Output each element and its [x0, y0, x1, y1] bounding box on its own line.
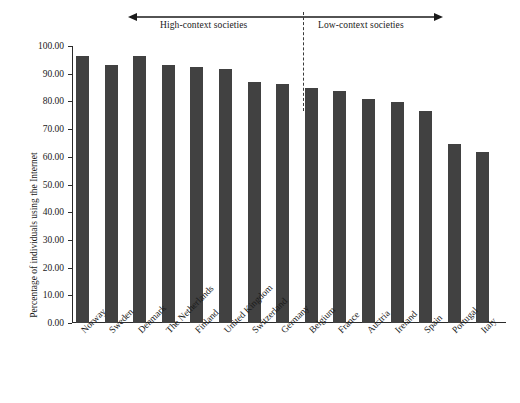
- context-annotation-band: High-context societies Low-context socie…: [0, 0, 520, 40]
- bar: [248, 82, 261, 323]
- annotation-arrow-svg: [0, 0, 520, 40]
- bar: [76, 56, 89, 323]
- bar: [276, 84, 289, 323]
- bar: [305, 88, 318, 323]
- y-tick-label: 70.00: [43, 124, 64, 134]
- bar: [133, 56, 146, 323]
- bar: [219, 69, 232, 323]
- y-tick-label: 60.00: [43, 152, 64, 162]
- bar: [391, 102, 404, 323]
- bars-layer: [73, 46, 507, 323]
- y-tick-label: 0.00: [47, 318, 64, 328]
- y-axis-title: Percentage of individuals using the Inte…: [29, 115, 39, 355]
- y-tick-label: 50.00: [43, 180, 64, 190]
- bar: [476, 152, 489, 323]
- y-tick-label: 10.00: [43, 290, 64, 300]
- bar: [333, 91, 346, 323]
- y-tick-mark: [68, 323, 72, 324]
- y-tick-label: 20.00: [43, 263, 64, 273]
- annotation-label-high-context: High-context societies: [160, 20, 247, 30]
- y-tick-label: 100.00: [38, 41, 64, 51]
- bar: [419, 111, 432, 323]
- y-tick-label: 30.00: [43, 235, 64, 245]
- y-tick-label: 90.00: [43, 69, 64, 79]
- annotation-label-low-context: Low-context societies: [318, 20, 404, 30]
- y-tick-label: 40.00: [43, 207, 64, 217]
- bar: [190, 67, 203, 323]
- bar: [162, 65, 175, 323]
- y-axis: Percentage of individuals using the Inte…: [0, 46, 72, 323]
- bar-chart-figure: High-context societies Low-context socie…: [0, 0, 520, 403]
- y-tick-label: 80.00: [43, 96, 64, 106]
- bar: [105, 65, 118, 323]
- x-axis-labels: NorwaySwedenDenmarkThe NetherlandsFinlan…: [73, 324, 513, 403]
- bar: [362, 99, 375, 323]
- bar: [448, 144, 461, 323]
